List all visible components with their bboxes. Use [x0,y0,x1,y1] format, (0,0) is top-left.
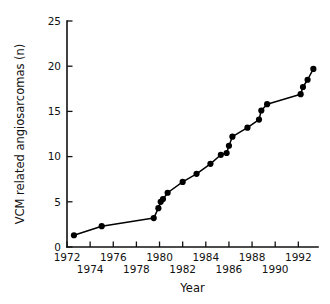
data-point [155,205,161,211]
data-point [207,161,213,167]
data-point [160,196,166,202]
data-series [71,66,317,239]
x-axis-title: Year [179,281,205,295]
data-point [229,134,235,140]
x-tick-label: 1990 [262,263,289,275]
y-tick-label: 5 [54,196,61,208]
data-point [264,101,270,107]
x-axis-ticks [67,242,298,248]
x-tick-label: 1974 [77,263,104,275]
chart-figure: 1972197419761978198019821984198619881990… [0,0,330,304]
x-tick-label: 1992 [285,251,312,263]
data-point [165,190,171,196]
y-axis-title: VCM related angiosarcomas (n) [13,44,27,225]
axes [67,21,318,247]
data-point [310,66,316,72]
data-point [180,179,186,185]
data-point [298,91,304,97]
data-point [258,107,264,113]
data-point [256,116,262,122]
y-tick-label: 0 [54,241,61,253]
x-tick-label: 1986 [216,263,243,275]
y-tick-label: 20 [48,60,61,72]
data-point [244,125,250,131]
angiosarcoma-line-chart: 1972197419761978198019821984198619881990… [0,0,330,304]
data-point [71,232,77,238]
x-axis-tick-labels: 1972197419761978198019821984198619881990… [54,251,312,276]
y-tick-label: 15 [48,105,61,117]
data-point [193,171,199,177]
x-tick-label: 1980 [146,251,173,263]
x-tick-label: 1984 [192,251,219,263]
y-axis-ticks [67,21,73,247]
data-point [218,152,224,158]
x-tick-label: 1988 [239,251,266,263]
y-axis-tick-labels: 0510152025 [48,15,61,253]
x-tick-label: 1976 [100,251,127,263]
data-point [226,143,232,149]
data-point [300,84,306,90]
data-point [224,150,230,156]
y-tick-label: 10 [48,150,61,162]
data-point [151,215,157,221]
x-tick-label: 1978 [123,263,150,275]
data-point [99,223,105,229]
x-tick-label: 1982 [169,263,196,275]
y-tick-label: 25 [48,15,61,27]
data-point [304,77,310,83]
series-line [74,69,313,235]
